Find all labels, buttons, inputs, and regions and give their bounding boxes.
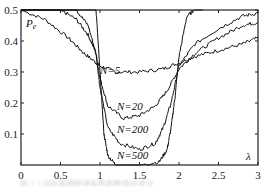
y-axis-label: Pe	[25, 17, 37, 31]
y-tick-label: 0.2	[4, 97, 18, 109]
series-line-n-500	[21, 10, 203, 165]
figure-caption: 图 2.3 误码率随粗调系数和数值的变化	[20, 178, 260, 186]
chart: 00.511.522.530.10.20.30.40.5PeλN=5N=20N=…	[0, 0, 263, 189]
y-tick-label: 0.4	[4, 35, 18, 47]
label-n5: N=5	[99, 64, 121, 76]
series-line-n-5	[21, 10, 258, 74]
y-tick-label: 0.5	[4, 4, 18, 16]
plot-frame	[21, 10, 258, 165]
y-tick-label: 0.1	[4, 128, 18, 140]
label-n200: N=200	[116, 123, 149, 135]
label-n500: N=500	[116, 149, 149, 161]
y-tick-label: 0.3	[4, 66, 18, 78]
x-axis-label: λ	[245, 150, 251, 162]
label-n20: N=20	[116, 100, 143, 112]
